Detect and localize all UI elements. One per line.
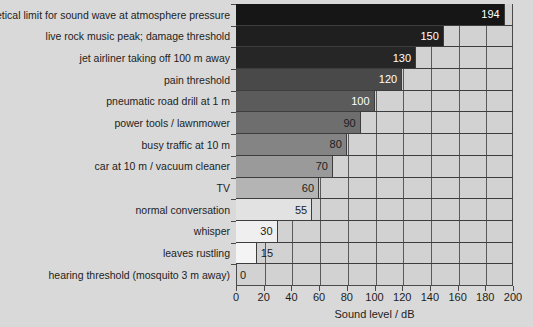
- category-label: power tools / lawnmower: [114, 118, 230, 129]
- bar: [236, 69, 402, 90]
- y-axis-tick: [231, 26, 236, 27]
- bar: [236, 243, 257, 264]
- y-axis-tick: [231, 243, 236, 244]
- x-axis-tick-label-40: 40: [285, 292, 297, 303]
- x-axis-tick-label-160: 160: [448, 292, 466, 303]
- bar-row: 150: [236, 26, 513, 48]
- y-axis-tick: [231, 134, 236, 135]
- bar-row: 90: [236, 112, 513, 134]
- x-axis-tick-label-120: 120: [393, 292, 411, 303]
- bar-value-label: 60: [302, 182, 314, 193]
- bar-value-label: 120: [379, 74, 397, 85]
- x-axis-tick-label-200: 200: [504, 292, 522, 303]
- category-label: pain threshold: [164, 75, 230, 86]
- category-label: car at 10 m / vacuum cleaner: [95, 161, 230, 172]
- bar-row: 100: [236, 91, 513, 113]
- y-axis-tick: [231, 221, 236, 222]
- bar-value-label: 90: [343, 117, 355, 128]
- category-label-row: pain threshold: [0, 69, 230, 91]
- bar-value-label: 0: [240, 270, 246, 281]
- bar-value-label: 15: [261, 247, 273, 258]
- category-label-row: hearing threshold (mosquito 3 m away): [0, 264, 230, 286]
- x-axis-tick-label-180: 180: [476, 292, 494, 303]
- bar-value-label: 194: [481, 9, 499, 20]
- bar-row: 55: [236, 199, 513, 221]
- category-label-row: car at 10 m / vacuum cleaner: [0, 156, 230, 178]
- bar-value-label: 130: [393, 52, 411, 63]
- x-axis-title: Sound level / dB: [236, 309, 513, 320]
- category-label: TV: [217, 183, 230, 194]
- bar: [236, 112, 361, 133]
- category-label-row: theoretical limit for sound wave at atmo…: [0, 4, 230, 26]
- sound-level-bar-chart: theoretical limit for sound wave at atmo…: [0, 0, 533, 327]
- x-axis-tick-label-20: 20: [258, 292, 270, 303]
- bar-row: 80: [236, 134, 513, 156]
- x-axis-tick-label-100: 100: [365, 292, 383, 303]
- category-label-row: busy traffic at 10 m: [0, 134, 230, 156]
- bar-row: 0: [236, 264, 513, 286]
- x-axis-tick-labels: 020406080100120140160180200: [236, 292, 513, 306]
- bar-row: 30: [236, 221, 513, 243]
- x-axis-tick-label-140: 140: [421, 292, 439, 303]
- category-label: hearing threshold (mosquito 3 m away): [48, 270, 230, 281]
- category-label-row: whisper: [0, 221, 230, 243]
- y-axis-tick: [231, 4, 236, 5]
- category-label-row: live rock music peak; damage threshold: [0, 26, 230, 48]
- bar-row: 130: [236, 47, 513, 69]
- category-label: leaves rustling: [163, 248, 230, 259]
- bar: [236, 4, 505, 25]
- y-axis-tick: [231, 178, 236, 179]
- category-label-row: jet airliner taking off 100 m away: [0, 47, 230, 69]
- category-label: busy traffic at 10 m: [141, 140, 230, 151]
- x-axis-tick-label-0: 0: [233, 292, 239, 303]
- y-axis-tick: [231, 199, 236, 200]
- x-axis-tick-label-60: 60: [313, 292, 325, 303]
- bar: [236, 26, 444, 47]
- category-label-row: normal conversation: [0, 199, 230, 221]
- category-label: pneumatic road drill at 1 m: [106, 96, 230, 107]
- category-label: jet airliner taking off 100 m away: [80, 53, 230, 64]
- y-axis-tick: [231, 156, 236, 157]
- bar-value-label: 100: [351, 96, 369, 107]
- category-label: live rock music peak; damage threshold: [46, 31, 230, 42]
- category-label-row: power tools / lawnmower: [0, 112, 230, 134]
- category-label: whisper: [194, 226, 230, 237]
- category-label-row: leaves rustling: [0, 243, 230, 265]
- bar: [236, 47, 416, 68]
- bar-value-label: 30: [260, 226, 272, 237]
- category-label-row: TV: [0, 178, 230, 200]
- x-axis-tick-label-80: 80: [341, 292, 353, 303]
- y-axis-tick: [231, 47, 236, 48]
- bar-rows: 194150130120100908070605530150: [236, 4, 513, 286]
- bar-value-label: 55: [295, 204, 307, 215]
- category-label: normal conversation: [135, 205, 230, 216]
- bar-value-label: 150: [420, 31, 438, 42]
- bar-row: 194: [236, 4, 513, 26]
- y-axis-tick: [231, 69, 236, 70]
- bar-value-label: 70: [316, 161, 328, 172]
- category-label: theoretical limit for sound wave at atmo…: [0, 10, 230, 21]
- bar-row: 60: [236, 178, 513, 200]
- bar-row: 120: [236, 69, 513, 91]
- y-axis-tick: [231, 112, 236, 113]
- category-axis-labels: theoretical limit for sound wave at atmo…: [0, 4, 230, 286]
- y-axis-tick: [231, 91, 236, 92]
- bar-row: 15: [236, 243, 513, 265]
- category-label-row: pneumatic road drill at 1 m: [0, 91, 230, 113]
- bar-value-label: 80: [330, 139, 342, 150]
- bar-row: 70: [236, 156, 513, 178]
- y-axis-tick: [231, 264, 236, 265]
